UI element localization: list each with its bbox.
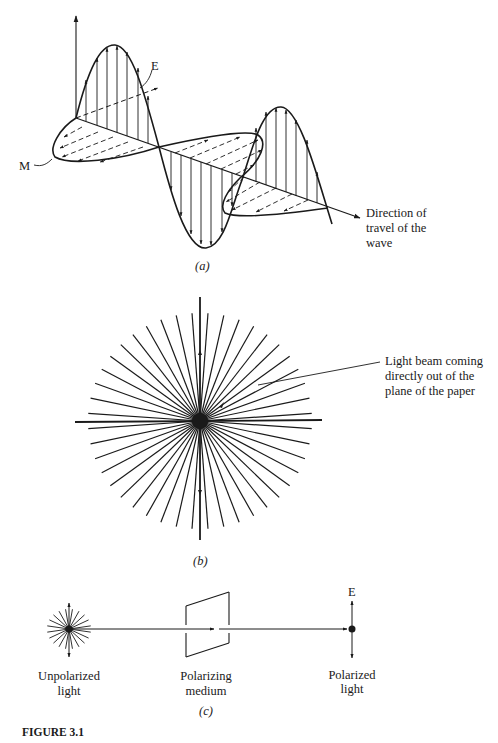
- source-label-line-2: light: [58, 684, 81, 698]
- panel-b-unpolarized-beam: Light beam coming directly out of the pl…: [75, 297, 484, 568]
- polarizing-medium: [186, 592, 229, 657]
- panel-c-caption: (c): [199, 704, 213, 718]
- output-label-line-1: Polarized: [328, 668, 376, 682]
- electric-field-arrows: [86, 46, 317, 245]
- direction-label-line-3: wave: [366, 236, 393, 250]
- beam-label-line-1: Light beam coming: [385, 354, 484, 368]
- figure-title: FIGURE 3.1: [22, 726, 84, 738]
- direction-label-line-1: Direction of: [366, 206, 428, 220]
- e-label: E: [151, 59, 159, 73]
- medium-label-line-2: medium: [186, 684, 227, 698]
- direction-label-line-2: travel of the: [366, 221, 427, 235]
- down-arrowhead: [198, 490, 202, 495]
- ray-arrowhead: [219, 402, 224, 408]
- figure-canvas: E M Direction of travel of the wave (a) …: [0, 0, 498, 743]
- panel-a-caption: (a): [195, 259, 210, 273]
- m-label: M: [19, 159, 30, 173]
- output-label-line-2: light: [341, 682, 364, 696]
- up-arrowhead: [198, 350, 202, 355]
- medium-label-line-1: Polarizing: [180, 669, 232, 683]
- beam-center-dot: [192, 413, 208, 429]
- m-label-leader: [34, 159, 52, 166]
- beam-label-line-2: directly out of the: [385, 369, 475, 383]
- magnetic-field-hatching: [60, 127, 308, 212]
- magnetic-field-curve: [53, 118, 328, 216]
- source-label-line-1: Unpolarized: [38, 669, 101, 683]
- polarized-dot: [349, 626, 356, 633]
- panel-b-caption: (b): [193, 554, 208, 568]
- panel-c-polarization: E Unpolarized light Polarizing medium Po…: [38, 585, 376, 718]
- e-label-c: E: [348, 585, 356, 599]
- beam-label-line-3: plane of the paper: [385, 384, 476, 398]
- electric-field-curve: [76, 45, 332, 248]
- panel-a-em-wave: E M Direction of travel of the wave (a): [19, 16, 428, 273]
